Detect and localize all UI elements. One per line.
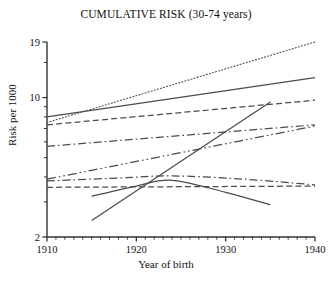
- series-6-thin-dash-dot: [47, 176, 315, 185]
- axes: [47, 42, 315, 237]
- plot-area: 210191910192019301940: [0, 0, 332, 282]
- tick-marks: [43, 42, 316, 242]
- series-3-dashed: [47, 100, 315, 125]
- series-7-flat-dashed: [47, 186, 315, 187]
- x-tick-label: 1940: [305, 244, 326, 255]
- y-tick-label: 2: [35, 232, 40, 243]
- cumulative-risk-chart: CUMULATIVE RISK (30-74 years) Risk per 1…: [0, 0, 332, 282]
- y-tick-label: 10: [30, 92, 41, 103]
- series-5-dash-dot-dot: [47, 126, 315, 179]
- series-8-steep-rise-solid: [92, 102, 271, 220]
- data-series: [47, 42, 315, 220]
- tick-labels: 210191910192019301940: [30, 37, 326, 255]
- x-tick-label: 1920: [126, 244, 147, 255]
- x-tick-label: 1910: [37, 244, 58, 255]
- y-tick-label: 19: [30, 37, 41, 48]
- series-9-peak-decline-solid: [92, 180, 271, 205]
- series-2-solid: [47, 78, 315, 117]
- series-4-dash-dot: [47, 125, 315, 146]
- x-tick-label: 1930: [215, 244, 236, 255]
